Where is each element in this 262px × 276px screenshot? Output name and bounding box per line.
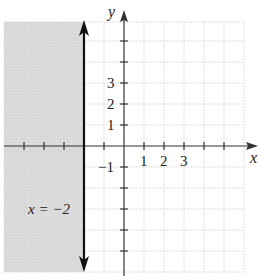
x-tick-label-2: 2 bbox=[160, 153, 168, 169]
y-tick-label-2: 2 bbox=[107, 96, 115, 112]
y-tick-label-1: 1 bbox=[107, 117, 115, 133]
y-axis-label: y bbox=[106, 3, 116, 21]
y-axis bbox=[120, 20, 128, 276]
y-tick-label-3: 3 bbox=[107, 75, 115, 91]
boundary-line-label: x = −2 bbox=[27, 201, 70, 217]
y-tick-label-neg1: −1 bbox=[98, 159, 114, 175]
x-tick-label-3: 3 bbox=[180, 153, 188, 169]
x-axis-label: x bbox=[249, 149, 257, 166]
coordinate-plane: y x 3 2 1 −1 1 2 3 x = −2 bbox=[0, 0, 262, 276]
x-tick-label-1: 1 bbox=[140, 153, 148, 169]
